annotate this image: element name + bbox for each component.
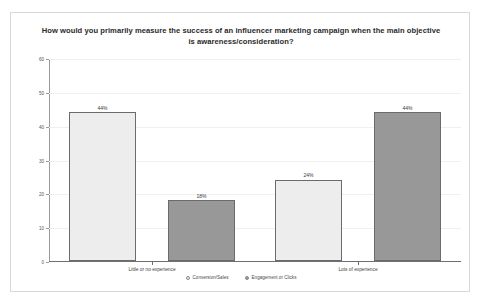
y-tick-mark <box>46 93 49 94</box>
bar-value-label: 44% <box>402 105 412 111</box>
chart-title: How would you primarily measure the succ… <box>39 25 443 47</box>
bar-value-label: 44% <box>97 105 107 111</box>
legend-swatch-icon <box>245 276 249 280</box>
chart-card: How would you primarily measure the succ… <box>10 12 470 292</box>
y-tick-label: 0 <box>41 260 44 265</box>
legend-item[interactable]: Engagement or Clicks <box>245 275 297 280</box>
bar: 18% <box>168 200 235 261</box>
bar: 24% <box>275 180 342 261</box>
x-axis-category-label: Lots of experience <box>338 267 377 272</box>
y-tick-label: 20 <box>39 192 44 197</box>
y-tick-label: 10 <box>39 226 44 231</box>
bar-value-label: 24% <box>303 172 313 178</box>
x-axis-category-label: Little or no experience <box>128 267 175 272</box>
legend-label: Engagement or Clicks <box>252 275 297 280</box>
gridline <box>49 93 461 94</box>
legend-label: Conversion/Sales <box>193 275 229 280</box>
bar-value-label: 18% <box>196 193 206 199</box>
x-tick-mark <box>152 262 153 265</box>
y-tick-label: 30 <box>39 158 44 163</box>
plot-area: 0102030405060 44%18%24%44% Little or no … <box>49 59 461 262</box>
gridline <box>49 59 461 60</box>
y-tick-label: 60 <box>39 57 44 62</box>
y-tick-label: 50 <box>39 90 44 95</box>
y-tick-mark <box>46 161 49 162</box>
y-tick-mark <box>46 59 49 60</box>
bar: 44% <box>374 112 441 261</box>
y-tick-label: 40 <box>39 124 44 129</box>
bar: 44% <box>69 112 136 261</box>
x-axis-line <box>49 261 461 262</box>
x-tick-mark <box>358 262 359 265</box>
y-tick-mark <box>46 127 49 128</box>
legend-swatch-icon <box>186 276 190 280</box>
legend-item[interactable]: Conversion/Sales <box>186 275 229 280</box>
chart-legend: Conversion/SalesEngagement or Clicks <box>11 275 471 280</box>
y-tick-mark <box>46 194 49 195</box>
y-tick-mark <box>46 228 49 229</box>
y-tick-mark <box>46 262 49 263</box>
